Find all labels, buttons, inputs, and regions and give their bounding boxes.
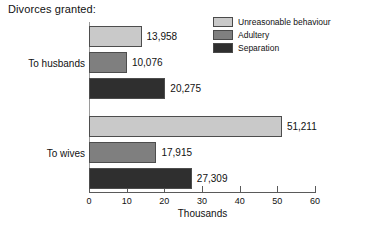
chart-canvas: Divorces granted: Unreasonable behaviour… xyxy=(0,0,372,226)
bar-value-label: 51,211 xyxy=(287,116,317,137)
x-axis-tick xyxy=(277,186,278,192)
bar[interactable] xyxy=(89,78,165,99)
bar[interactable] xyxy=(89,52,127,73)
x-axis-tick-label: 10 xyxy=(122,196,132,206)
x-axis-tick-label: 40 xyxy=(235,196,245,206)
bar[interactable] xyxy=(89,168,192,189)
x-axis-tick-label: 60 xyxy=(310,196,320,206)
bar-value-label: 27,309 xyxy=(197,168,228,189)
bar-value-label: 20,275 xyxy=(170,78,201,99)
bar-value-label: 10,076 xyxy=(132,52,163,73)
x-axis-tick-label: 50 xyxy=(272,196,282,206)
category-label: To husbands xyxy=(0,57,85,68)
bar[interactable] xyxy=(89,26,142,47)
x-axis-tick-label: 20 xyxy=(159,196,169,206)
x-axis-tick-label: 0 xyxy=(86,196,91,206)
chart-title: Divorces granted: xyxy=(8,3,96,15)
bar[interactable] xyxy=(89,142,156,163)
bar-value-label: 17,915 xyxy=(161,142,192,163)
bar[interactable] xyxy=(89,116,282,137)
x-axis-tick-label: 30 xyxy=(197,196,207,206)
y-axis-line xyxy=(89,22,90,192)
x-axis-tick xyxy=(240,186,241,192)
x-axis-line xyxy=(89,192,316,193)
x-axis-tick xyxy=(315,186,316,192)
x-axis-title: Thousands xyxy=(89,208,316,219)
bar-value-label: 13,958 xyxy=(147,26,178,47)
category-label: To wives xyxy=(0,147,85,158)
plot-area: 010203040506013,95810,07620,27551,21117,… xyxy=(89,22,315,192)
